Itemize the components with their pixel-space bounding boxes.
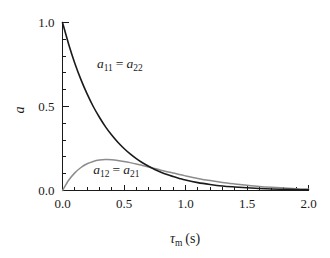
series-label-a21-sub: 21 xyxy=(130,169,140,179)
y-tick-label: 1.0 xyxy=(38,15,54,30)
y-tick-label: 0.0 xyxy=(38,183,54,198)
x-tick-label: 0.5 xyxy=(116,196,132,211)
series-label-a11-equals: = xyxy=(116,56,124,71)
series-label-a12-sub: 12 xyxy=(100,169,110,179)
series-label-a12-equals: = xyxy=(113,162,121,177)
x-tick-label: 1.0 xyxy=(177,196,193,211)
series-label-a22-sub: 22 xyxy=(133,63,143,73)
x-tick-label: 1.5 xyxy=(239,196,255,211)
x-tick-label: 0.0 xyxy=(54,196,70,211)
x-axis-title: τm(s) xyxy=(170,231,201,248)
x-tick-label: 2.0 xyxy=(300,196,316,211)
y-tick-label: 0.5 xyxy=(38,99,54,114)
series-label-a11-sub: 11 xyxy=(104,63,113,73)
chart-figure: 0.00.51.0 0.00.51.01.52.0 a τm(s) a11=a2… xyxy=(0,0,330,258)
y-axis-title: a xyxy=(12,107,27,114)
chart-plot-svg: 0.00.51.0 0.00.51.01.52.0 a τm(s) a11=a2… xyxy=(0,0,330,258)
x-axis-title-unit: (s) xyxy=(185,231,200,247)
x-axis-title-subscript: m xyxy=(175,238,183,248)
chart-background xyxy=(0,0,330,258)
